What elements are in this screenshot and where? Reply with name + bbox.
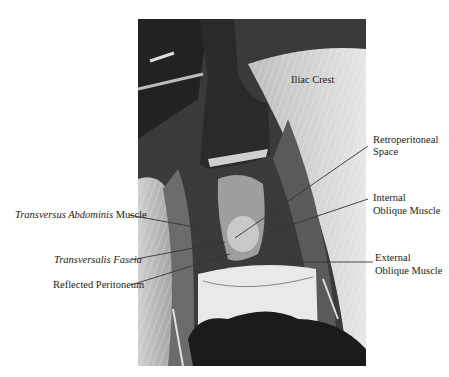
label-reflected-peritoneum: Reflected Peritoneum: [53, 279, 144, 291]
label-external-oblique-line2: Oblique Muscle: [375, 265, 442, 277]
label-retroperitoneal-space-line2: Space: [373, 146, 398, 158]
label-transversus-abdominis-italic: Transversus Abdominis: [15, 209, 113, 220]
photo-illustration: [138, 19, 366, 366]
label-external-oblique-line1: External: [375, 252, 411, 264]
anatomical-figure: Iliac Crest Retroperitoneal Space Intern…: [0, 0, 449, 377]
label-transversus-abdominis-suffix: Muscle: [113, 209, 147, 220]
label-transversalis-fascia: Transversalis Fascia: [54, 254, 142, 266]
label-transversus-abdominis: Transversus Abdominis Muscle: [15, 209, 147, 221]
label-retroperitoneal-space-line1: Retroperitoneal: [373, 134, 438, 146]
label-internal-oblique-line1: Internal: [373, 192, 406, 204]
surgical-photograph: [138, 19, 366, 366]
label-iliac-crest: Iliac Crest: [291, 74, 334, 86]
label-internal-oblique-line2: Oblique Muscle: [373, 205, 440, 217]
